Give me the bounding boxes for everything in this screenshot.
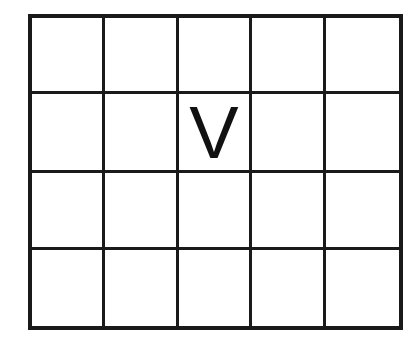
grid-cell-r3-c0 [32,250,105,326]
grid-diagram: V [28,14,403,330]
grid-cell-r2-c1 [105,173,178,249]
grid-cell-r3-c3 [252,250,325,326]
grid-cell-r2-c4 [326,173,399,249]
grid-cell-r1-c0 [32,94,105,173]
grid-cell-r1-c2: V [179,94,252,173]
grid-cell-r1-c1 [105,94,178,173]
grid-cell-r2-c2 [179,173,252,249]
cell-label-v: V [189,96,238,170]
grid-cell-r2-c3 [252,173,325,249]
grid-cell-r2-c0 [32,173,105,249]
grid-cell-r0-c3 [252,18,325,94]
grid-cell-r0-c1 [105,18,178,94]
grid-cell-r3-c4 [326,250,399,326]
grid-cell-r1-c4 [326,94,399,173]
grid-cell-r0-c4 [326,18,399,94]
grid-cell-r3-c1 [105,250,178,326]
grid-cell-r1-c3 [252,94,325,173]
grid-cell-r0-c0 [32,18,105,94]
grid-cell-r3-c2 [179,250,252,326]
grid-cell-r0-c2 [179,18,252,94]
